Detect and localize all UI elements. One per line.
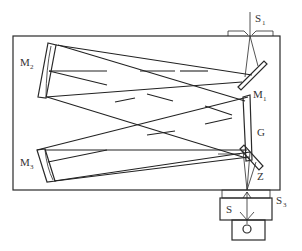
- svg-text:2: 2: [30, 63, 34, 71]
- entrance-slit: [228, 12, 273, 77]
- svg-text:3: 3: [30, 163, 34, 171]
- grating-g: [243, 95, 252, 161]
- label-m3: M 3: [20, 156, 34, 171]
- label-s: S: [226, 203, 232, 215]
- svg-text:Z: Z: [257, 170, 264, 182]
- label-m2: M 2: [20, 56, 34, 71]
- detector: [232, 220, 265, 240]
- exit-slit: [222, 190, 270, 198]
- label-s1: S 1: [255, 12, 266, 27]
- svg-text:M: M: [20, 156, 30, 168]
- svg-text:S: S: [276, 194, 282, 206]
- svg-text:1: 1: [263, 95, 267, 103]
- label-z: Z: [257, 170, 264, 182]
- mirror-m3: [37, 149, 55, 182]
- svg-text:M: M: [253, 88, 263, 100]
- light-rays: [37, 45, 256, 190]
- label-g: G: [257, 126, 265, 138]
- svg-text:G: G: [257, 126, 265, 138]
- mirror-m1: [238, 61, 267, 90]
- spectrometer-diagram: S 1 M 1 M 2 M 3 G Z S 3 S: [0, 0, 302, 251]
- label-m1: M 1: [253, 88, 267, 103]
- svg-text:S: S: [255, 12, 261, 24]
- svg-text:M: M: [20, 56, 30, 68]
- svg-text:S: S: [226, 203, 232, 215]
- svg-text:3: 3: [283, 201, 287, 209]
- svg-text:1: 1: [262, 19, 266, 27]
- label-s3: S 3: [276, 194, 287, 209]
